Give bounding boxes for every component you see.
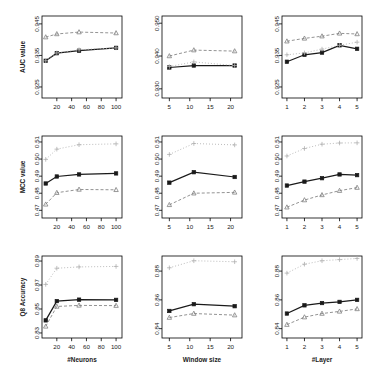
data-point-square: [168, 309, 171, 312]
x-tick-label: 5: [355, 223, 359, 230]
data-point-square: [303, 180, 306, 183]
series-line-solid_square: [169, 66, 234, 68]
plot-panel-r1c1: 204060801000.9250.9350.945AUC value: [8, 6, 128, 126]
y-tick-label: 0.88: [273, 265, 280, 278]
y-tick-label: 0.51: [33, 135, 40, 148]
x-tick-label: 15: [207, 223, 214, 230]
x-tick-label: 60: [83, 343, 90, 350]
y-tick-label: 0.89: [33, 254, 40, 267]
data-point-plus: [192, 258, 197, 263]
x-tick-label: 2: [303, 223, 307, 230]
plot-frame: [42, 136, 122, 218]
x-tick-label: 20: [53, 223, 60, 230]
data-point-triangle: [337, 31, 341, 35]
data-point-plus: [337, 141, 342, 146]
data-point-plus: [77, 265, 82, 270]
data-point-plus: [232, 143, 237, 148]
x-tick-label: 4: [338, 223, 342, 230]
data-point-plus: [285, 52, 290, 57]
x-tick-label: 80: [98, 223, 105, 230]
x-tick-label: 20: [53, 103, 60, 110]
plot-frame: [162, 256, 242, 338]
x-tick-label: 15: [207, 343, 214, 350]
series-line-dotted_plus: [46, 144, 116, 160]
x-tick-label: 1: [285, 103, 289, 110]
data-point-square: [44, 182, 47, 185]
figure-panel-grid: 204060801000.9250.9350.945AUC value51015…: [0, 0, 374, 369]
data-point-square: [320, 176, 323, 179]
data-point-plus: [355, 256, 360, 261]
y-tick-label: 0.51: [153, 135, 160, 148]
data-point-square: [285, 184, 288, 187]
y-tick-label: 0.84: [153, 322, 160, 335]
x-tick-label: 1: [285, 343, 289, 350]
series-line-dashed_triangle: [169, 192, 234, 204]
x-axis-title: #Neurons: [67, 356, 97, 363]
y-tick-label: 0.48: [273, 187, 280, 200]
data-point-plus: [114, 264, 119, 269]
y-tick-label: 0.935: [33, 47, 40, 63]
data-point-square: [338, 173, 341, 176]
x-tick-label: 20: [53, 343, 60, 350]
y-tick-label: 0.935: [273, 47, 280, 63]
data-point-triangle: [337, 309, 341, 313]
y-tick-label: 0.83: [33, 326, 40, 339]
x-tick-label: 60: [83, 103, 90, 110]
data-point-square: [285, 312, 288, 315]
data-point-plus: [192, 141, 197, 146]
plot-panel-r3c2: 51015200.840.860.88Window size: [128, 246, 248, 366]
x-tick-label: 3: [320, 223, 324, 230]
data-point-square: [192, 171, 195, 174]
data-point-triangle: [355, 185, 359, 189]
x-tick-label: 100: [111, 343, 122, 350]
data-point-plus: [355, 141, 360, 146]
data-point-triangle: [232, 190, 236, 194]
y-tick-label: 0.47: [153, 204, 160, 217]
y-tick-label: 0.945: [273, 16, 280, 32]
data-point-plus: [167, 152, 172, 157]
data-point-square: [233, 305, 236, 308]
data-point-square: [338, 300, 341, 303]
data-point-triangle: [355, 307, 359, 311]
data-point-square: [355, 173, 358, 176]
y-tick-label: 0.49: [33, 170, 40, 183]
data-point-square: [55, 175, 58, 178]
plot-panel-r2c1: 204060801000.470.480.490.500.51MCC value: [8, 126, 128, 246]
data-point-plus: [55, 266, 60, 271]
data-point-square: [320, 301, 323, 304]
y-tick-label: 0.50: [153, 152, 160, 165]
y-tick-label: 0.49: [153, 170, 160, 183]
x-tick-label: 80: [98, 343, 105, 350]
x-tick-label: 60: [83, 223, 90, 230]
plot-frame: [42, 256, 122, 338]
data-point-square: [114, 172, 117, 175]
plot-panel-r2c3: 123450.470.480.490.500.51: [248, 126, 368, 246]
y-tick-label: 0.86: [153, 293, 160, 306]
data-point-plus: [302, 262, 307, 267]
series-line-dotted_plus: [169, 261, 234, 268]
series-line-solid_square: [169, 172, 234, 182]
x-tick-label: 3: [320, 103, 324, 110]
data-point-square: [303, 304, 306, 307]
data-point-square: [355, 47, 358, 50]
data-point-triangle: [114, 187, 118, 191]
x-tick-label: 5: [168, 103, 172, 110]
plot-panel-r1c3: 123450.9250.9350.945: [248, 6, 368, 126]
x-tick-label: 1: [285, 223, 289, 230]
x-tick-label: 2: [303, 343, 307, 350]
x-tick-label: 4: [338, 103, 342, 110]
x-tick-label: 40: [68, 223, 75, 230]
y-tick-label: 0.945: [33, 16, 40, 32]
data-point-square: [77, 298, 80, 301]
data-point-square: [44, 319, 47, 322]
x-tick-label: 5: [355, 103, 359, 110]
x-tick-label: 20: [227, 223, 234, 230]
x-tick-label: 80: [98, 103, 105, 110]
plot-frame: [282, 16, 362, 98]
plot-panel-r2c2: 51015200.470.480.490.500.51: [128, 126, 248, 246]
x-tick-label: 15: [207, 103, 214, 110]
y-axis-title: MCC value: [19, 160, 26, 193]
data-point-plus: [285, 154, 290, 159]
x-tick-label: 100: [111, 223, 122, 230]
x-tick-label: 40: [68, 343, 75, 350]
